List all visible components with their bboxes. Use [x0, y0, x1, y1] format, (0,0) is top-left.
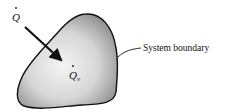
boundary-label: System boundary — [143, 43, 209, 53]
system-region — [17, 14, 117, 108]
q-dot-text: Q — [12, 11, 20, 23]
dot-accent — [72, 65, 74, 67]
boundary-leader-line — [118, 48, 141, 57]
control-volume-diagram: Q Q v System boundary — [0, 0, 232, 112]
dot-accent — [15, 7, 17, 9]
qv-text: Q — [69, 69, 77, 81]
heat-flux-label: Q — [12, 7, 20, 23]
